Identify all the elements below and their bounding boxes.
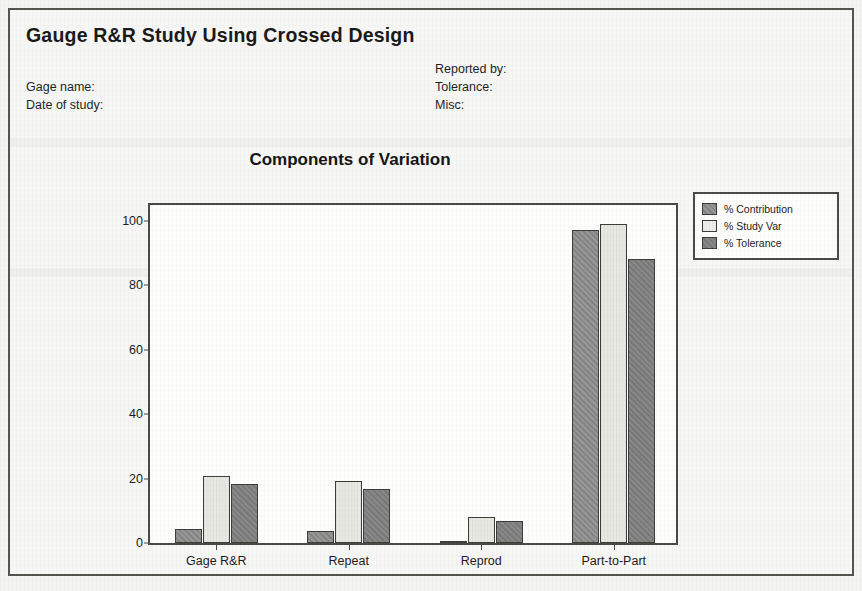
legend-item-label: % Study Var (724, 220, 782, 232)
bar-reprod--contribution (440, 541, 467, 543)
x-axis-tick-mark (481, 543, 482, 550)
bar-reprod--study-var (468, 517, 495, 543)
y-axis-tick-label: 20 (129, 472, 143, 486)
bar-part-to-part--tolerance (628, 259, 655, 543)
bar-repeat--study-var (335, 481, 362, 543)
y-axis-tick-label: 80 (129, 278, 143, 292)
x-axis-tick-mark (349, 543, 350, 550)
legend-item: % Study Var (702, 217, 829, 234)
y-axis-tick-mark (144, 221, 150, 222)
reported-by-label: Reported by: (435, 62, 507, 76)
components-of-variation-chart: Components of Variation 020406080100 Gag… (10, 132, 852, 576)
page-title: Gauge R&R Study Using Crossed Design (26, 24, 415, 47)
bar-repeat--tolerance (363, 489, 390, 543)
legend-swatch-icon (702, 203, 717, 215)
chart-legend: % Contribution% Study Var% Tolerance (693, 192, 839, 260)
y-axis-tick-label: 0 (136, 536, 143, 550)
legend-swatch-icon (702, 237, 717, 249)
report-frame: Gauge R&R Study Using Crossed Design Gag… (8, 8, 854, 576)
legend-item-label: % Tolerance (724, 237, 782, 249)
x-axis-tick-mark (614, 543, 615, 550)
bar-gage-r-r--tolerance (231, 484, 258, 543)
y-axis-tick-mark (144, 478, 150, 479)
bar-gage-r-r--contribution (175, 529, 202, 543)
x-axis-tick-label: Gage R&R (186, 554, 246, 568)
y-axis-tick-label: 40 (129, 407, 143, 421)
legend-item: % Contribution (702, 200, 829, 217)
legend-swatch-icon (702, 220, 717, 232)
legend-item-label: % Contribution (724, 203, 793, 215)
legend-item: % Tolerance (702, 234, 829, 251)
plot-area: 020406080100 Gage R&RRepeatReprodPart-to… (148, 203, 678, 545)
chart-title: Components of Variation (10, 150, 690, 170)
y-axis-tick-mark (144, 414, 150, 415)
bar-part-to-part--contribution (572, 230, 599, 543)
gage-name-label: Gage name: (26, 80, 95, 94)
scanned-report-page: Gauge R&R Study Using Crossed Design Gag… (0, 0, 862, 591)
x-axis-tick-label: Part-to-Part (581, 554, 646, 568)
date-of-study-label: Date of study: (26, 98, 103, 112)
bar-reprod--tolerance (496, 521, 523, 543)
y-axis-tick-mark (144, 285, 150, 286)
y-axis-tick-mark (144, 349, 150, 350)
bar-part-to-part--study-var (600, 224, 627, 543)
x-axis-tick-label: Repeat (329, 554, 369, 568)
y-axis-tick-label: 60 (129, 343, 143, 357)
x-axis-tick-label: Reprod (461, 554, 502, 568)
y-axis-tick-label: 100 (122, 214, 143, 228)
misc-label: Misc: (435, 98, 464, 112)
x-axis-tick-mark (216, 543, 217, 550)
y-axis-tick-mark (144, 543, 150, 544)
tolerance-label: Tolerance: (435, 80, 493, 94)
bar-repeat--contribution (307, 531, 334, 543)
bar-gage-r-r--study-var (203, 476, 230, 543)
